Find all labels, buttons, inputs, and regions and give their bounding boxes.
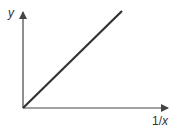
y-axis-label: y <box>8 6 14 20</box>
x-axis-label: 1/x <box>152 114 168 128</box>
proportional-line <box>23 11 122 108</box>
graph <box>0 0 182 132</box>
x-axis-label-numerator: 1/ <box>152 114 162 128</box>
x-axis-label-variable: x <box>162 114 168 128</box>
